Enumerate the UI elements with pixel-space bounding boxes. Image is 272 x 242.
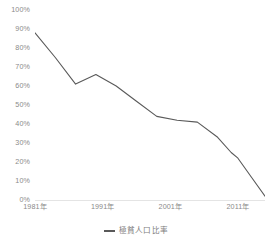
x-axis: 1981年1991年2001年2011年 — [0, 203, 272, 217]
x-tick-label: 2001年 — [159, 203, 183, 210]
x-tick-label: 2011年 — [226, 203, 249, 210]
legend-line-swatch — [104, 230, 115, 231]
series-line-extreme-poverty-rate — [35, 10, 265, 200]
legend-label: 極貧人口比率 — [119, 227, 168, 235]
y-axis: 0%10%20%30%40%50%60%70%80%90%100% — [0, 0, 33, 210]
x-tick-label: 1991年 — [91, 203, 115, 210]
y-tick-label: 70% — [15, 63, 30, 70]
y-tick-label: 100% — [11, 6, 30, 13]
line-chart: 0%10%20%30%40%50%60%70%80%90%100% 1981年1… — [0, 0, 272, 242]
x-axis-baseline — [35, 200, 265, 201]
y-tick-label: 10% — [15, 177, 30, 184]
y-tick-label: 30% — [15, 139, 30, 146]
y-tick-label: 20% — [15, 158, 30, 165]
x-tick-label: 1981年 — [23, 203, 47, 210]
y-tick-label: 60% — [15, 82, 30, 89]
legend: 極貧人口比率 — [0, 224, 272, 238]
y-tick-label: 50% — [15, 101, 30, 108]
y-tick-label: 90% — [15, 25, 30, 32]
y-tick-label: 40% — [15, 120, 30, 127]
plot-area — [35, 10, 265, 200]
y-tick-label: 80% — [15, 44, 30, 51]
